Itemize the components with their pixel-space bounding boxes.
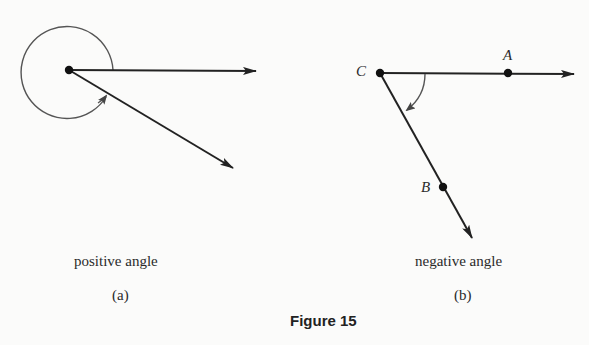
caption-positive-angle: positive angle — [74, 253, 158, 270]
point-C — [376, 69, 384, 77]
panel-a-diagram — [21, 26, 256, 168]
panel-label-a: (a) — [112, 287, 129, 304]
figure-title: Figure 15 — [290, 312, 357, 329]
initial-ray — [69, 70, 256, 71]
label-C: C — [356, 63, 366, 80]
panel-label-b: (b) — [454, 287, 472, 304]
caption-negative-angle: negative angle — [415, 253, 502, 270]
figure-diagram — [0, 0, 589, 345]
ray-CB — [380, 73, 472, 238]
terminal-ray — [69, 70, 233, 168]
label-B: B — [421, 179, 430, 196]
label-A: A — [503, 47, 512, 64]
point-A — [504, 69, 512, 77]
panel-b-diagram — [376, 69, 574, 238]
point-B — [439, 183, 447, 191]
rotation-arc — [407, 74, 425, 110]
vertex-point — [65, 66, 73, 74]
ray-CA — [380, 73, 574, 74]
